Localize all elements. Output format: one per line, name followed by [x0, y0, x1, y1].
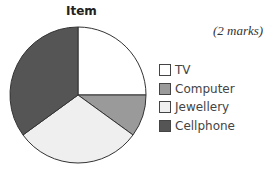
legend-swatch	[159, 101, 171, 113]
legend-swatch	[159, 64, 171, 76]
pie-slice-tv	[78, 27, 146, 95]
legend-label: Jewellery	[175, 100, 229, 114]
legend-item: Jewellery	[159, 98, 235, 117]
legend-label: Computer	[175, 82, 235, 96]
legend-item: Cellphone	[159, 117, 235, 136]
legend-swatch	[159, 120, 171, 132]
legend-swatch	[159, 83, 171, 95]
pie-chart	[0, 0, 160, 178]
legend-label: Cellphone	[175, 119, 235, 133]
legend-item: TV	[159, 61, 235, 80]
marks-annotation: (2 marks)	[213, 23, 263, 39]
legend: TV Computer Jewellery Cellphone	[159, 61, 235, 135]
legend-label: TV	[175, 63, 191, 77]
legend-item: Computer	[159, 80, 235, 99]
